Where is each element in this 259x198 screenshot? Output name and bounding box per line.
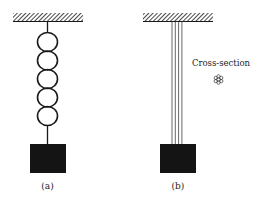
panel-b: (b) Cross-section [143, 13, 251, 191]
ceiling-support-a [13, 13, 83, 22]
mass-block-b [160, 144, 196, 173]
strand-bundle-cross-section-icon [214, 75, 223, 85]
panel-a: (a) [13, 13, 83, 191]
panel-label-a: (a) [41, 181, 53, 191]
chain-link [38, 51, 58, 70]
panel-label-b: (b) [172, 181, 185, 191]
chain-link [38, 107, 58, 126]
diagram: (a) (b) Cross-section [0, 0, 259, 198]
mass-block-a [30, 144, 66, 173]
ceiling-support-b [143, 13, 213, 22]
cross-section-label: Cross-section [192, 58, 251, 68]
chain [38, 33, 58, 126]
chain-link [38, 88, 58, 107]
chain-link [38, 33, 58, 52]
chain-link [38, 70, 58, 89]
wire-bundle [172, 22, 182, 145]
